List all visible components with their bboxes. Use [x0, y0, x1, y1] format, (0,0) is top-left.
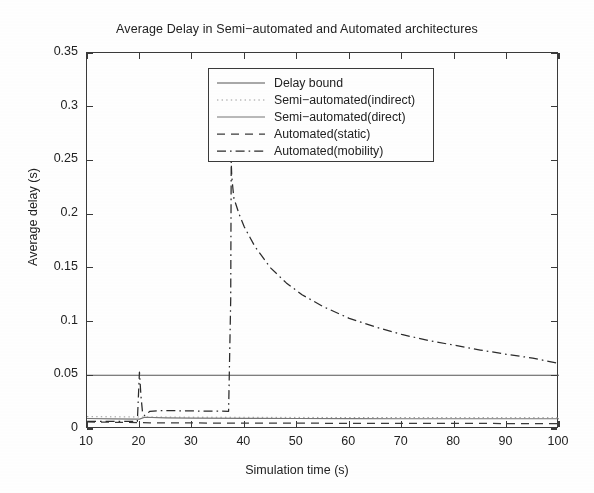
series-line-automated-static [87, 422, 559, 424]
legend-label: Delay bound [274, 77, 343, 89]
legend-line-sample-icon [215, 128, 267, 140]
y-tick-label: 0.3 [18, 98, 78, 112]
x-tick-mark [86, 421, 87, 427]
x-tick-label: 60 [328, 434, 368, 448]
chart-figure: Average Delay in Semi−automated and Auto… [0, 0, 594, 493]
x-tick-mark [349, 421, 350, 427]
x-tick-label: 10 [66, 434, 106, 448]
y-tick-mark-right [551, 214, 557, 215]
legend-label: Automated(mobility) [274, 145, 383, 157]
x-tick-mark-top [191, 53, 192, 59]
x-tick-mark [191, 421, 192, 427]
y-tick-mark [87, 106, 93, 107]
x-tick-label: 70 [381, 434, 421, 448]
x-tick-mark-top [296, 53, 297, 59]
x-tick-label: 50 [276, 434, 316, 448]
y-tick-mark [87, 321, 93, 322]
y-tick-mark [87, 375, 93, 376]
y-tick-label: 0 [18, 420, 78, 434]
y-tick-mark-right [551, 267, 557, 268]
x-tick-mark-top [139, 53, 140, 59]
y-tick-mark [87, 52, 93, 53]
x-axis-title: Simulation time (s) [0, 463, 594, 477]
x-tick-label: 30 [171, 434, 211, 448]
legend-line-sample-icon [215, 145, 267, 157]
legend-item-0[interactable]: Delay bound [215, 74, 427, 91]
x-tick-mark-top [401, 53, 402, 59]
x-tick-mark-top [349, 53, 350, 59]
x-tick-label: 90 [486, 434, 526, 448]
chart-title: Average Delay in Semi−automated and Auto… [0, 22, 594, 36]
x-tick-mark [296, 421, 297, 427]
legend-item-1[interactable]: Semi−automated(indirect) [215, 91, 427, 108]
x-tick-mark-top [454, 53, 455, 59]
legend-label: Semi−automated(direct) [274, 111, 406, 123]
y-tick-mark-right [551, 375, 557, 376]
legend-item-3[interactable]: Automated(static) [215, 125, 427, 142]
x-tick-label: 80 [433, 434, 473, 448]
y-tick-mark [87, 267, 93, 268]
y-tick-mark-right [551, 160, 557, 161]
x-tick-label: 100 [538, 434, 578, 448]
y-tick-mark-right [551, 52, 557, 53]
legend-item-4[interactable]: Automated(mobility) [215, 142, 427, 159]
x-tick-mark [244, 421, 245, 427]
x-tick-mark [558, 421, 559, 427]
y-tick-mark-right [551, 106, 557, 107]
y-tick-mark [87, 160, 93, 161]
y-tick-label: 0.05 [18, 366, 78, 380]
y-tick-label: 0.35 [18, 44, 78, 58]
x-tick-mark-top [558, 53, 559, 59]
x-tick-mark [506, 421, 507, 427]
legend-item-2[interactable]: Semi−automated(direct) [215, 108, 427, 125]
y-tick-mark-right [551, 428, 557, 429]
y-tick-mark-right [551, 321, 557, 322]
legend-line-sample-icon [215, 77, 267, 89]
chart-legend: Delay boundSemi−automated(indirect)Semi−… [208, 68, 434, 162]
legend-label: Semi−automated(indirect) [274, 94, 415, 106]
x-tick-mark-top [244, 53, 245, 59]
x-tick-mark-top [86, 53, 87, 59]
x-tick-mark-top [506, 53, 507, 59]
series-line-automated-mobility [87, 162, 559, 422]
x-tick-label: 40 [223, 434, 263, 448]
y-tick-label: 0.1 [18, 313, 78, 327]
x-tick-label: 20 [118, 434, 158, 448]
legend-line-sample-icon [215, 94, 267, 106]
legend-label: Automated(static) [274, 128, 370, 140]
y-axis-title: Average delay (s) [26, 122, 40, 312]
x-tick-mark [401, 421, 402, 427]
x-tick-mark [454, 421, 455, 427]
y-tick-mark [87, 428, 93, 429]
y-tick-mark [87, 214, 93, 215]
legend-line-sample-icon [215, 111, 267, 123]
x-tick-mark [139, 421, 140, 427]
